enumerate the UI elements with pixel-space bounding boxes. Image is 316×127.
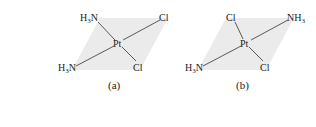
caption-b: (b) xyxy=(236,79,249,92)
ligand-a-bottom-left: H3N xyxy=(58,62,76,75)
center-atom-a: Pt xyxy=(113,38,122,49)
platinum-complex-diagram: H3N Cl Pt H3N Cl (a) Cl NH3 Pt H3N Cl (b… xyxy=(0,0,316,127)
ligand-a-top-left: H3N xyxy=(80,12,98,25)
ligand-b-bottom-right: Cl xyxy=(260,62,270,73)
center-atom-b: Pt xyxy=(240,38,249,49)
panel-a: H3N Cl Pt H3N Cl (a) xyxy=(58,12,169,92)
ligand-a-bottom-right: Cl xyxy=(133,62,143,73)
ligand-b-bottom-left: H3N xyxy=(185,62,203,75)
caption-a: (a) xyxy=(108,79,121,92)
ligand-a-top-right: Cl xyxy=(159,12,169,23)
panel-b: Cl NH3 Pt H3N Cl (b) xyxy=(185,12,305,92)
ligand-b-top-left: Cl xyxy=(226,12,236,23)
figure-canvas: H3N Cl Pt H3N Cl (a) Cl NH3 Pt H3N Cl (b… xyxy=(0,0,316,127)
